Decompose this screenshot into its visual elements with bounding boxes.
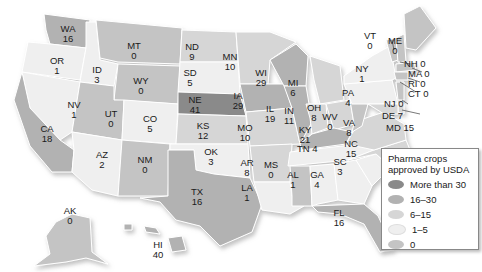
legend-swatch	[388, 240, 404, 249]
label-sd: SD5	[183, 68, 196, 88]
label-wy: WY0	[133, 76, 148, 96]
label-hi: HI40	[153, 240, 164, 260]
label-fl: FL16	[333, 208, 344, 228]
label-nj: NJ 0	[384, 98, 404, 109]
label-mt: MT0	[127, 41, 141, 61]
label-il: IL19	[265, 104, 276, 124]
legend-title: Pharma crops approved by USDA	[388, 153, 478, 175]
label-mn: MN10	[223, 52, 238, 72]
label-ca: CA18	[40, 124, 53, 144]
label-wa: WA16	[61, 24, 76, 44]
label-nv: NV1	[67, 100, 80, 120]
state-me	[404, 6, 436, 50]
legend-item-0: 0	[388, 238, 478, 250]
label-mi: MI6	[288, 78, 299, 98]
label-ms: MS0	[264, 160, 278, 180]
label-oh: OH8	[307, 103, 321, 123]
legend-swatch	[388, 224, 406, 235]
legend-item-16-30: 16–30	[388, 193, 478, 205]
label-ne: NE41	[188, 95, 201, 115]
legend: Pharma crops approved by USDA More than …	[381, 148, 479, 250]
legend-swatch	[388, 210, 404, 219]
legend-swatch	[388, 180, 404, 189]
label-nm: NM0	[138, 155, 153, 175]
label-nd: ND9	[185, 42, 199, 62]
label-ok: OK3	[204, 147, 218, 167]
label-in: IN11	[284, 106, 294, 126]
label-ar: AR8	[240, 158, 253, 178]
label-de: DE 7	[382, 110, 403, 121]
label-ny: NY1	[355, 64, 368, 84]
state-ct	[394, 72, 408, 80]
label-al: AL1	[287, 170, 299, 190]
legend-item-1-5: 1–5	[388, 223, 478, 235]
label-id: ID3	[92, 65, 102, 85]
label-nc: NC15	[344, 139, 358, 159]
label-md: MD 15	[386, 122, 414, 133]
state-hi-3	[168, 236, 186, 252]
label-va: VA8	[343, 118, 355, 138]
label-ga: GA4	[310, 170, 324, 190]
label-co: CO5	[143, 114, 157, 134]
label-pa: PA4	[342, 88, 354, 108]
label-or: OR1	[50, 56, 64, 76]
label-ut: UT0	[105, 109, 118, 129]
legend-item-more-than-30: More than 30	[388, 178, 478, 190]
label-ct: CT 0	[408, 88, 428, 99]
legend-swatch	[388, 195, 404, 204]
state-mi	[310, 56, 344, 104]
state-hi-2	[144, 226, 160, 234]
label-ky: KY21	[299, 125, 312, 145]
label-tx: TX16	[191, 187, 203, 207]
label-la: LA1	[241, 183, 253, 203]
label-tn: TN 4	[297, 143, 318, 154]
label-ks: KS12	[197, 121, 210, 141]
label-ia: IA29	[233, 91, 244, 111]
label-mo: MO10	[237, 123, 252, 143]
label-me: ME0	[388, 36, 402, 56]
label-vt: VT0	[364, 31, 376, 51]
legend-item-6-15: 6–15	[388, 208, 478, 220]
label-az: AZ2	[96, 150, 108, 170]
label-sc: SC3	[333, 157, 346, 177]
label-wv: WV0	[322, 112, 337, 132]
label-ak: AK0	[64, 206, 77, 226]
state-hi-1	[124, 224, 132, 230]
label-wi: WI29	[255, 68, 267, 88]
